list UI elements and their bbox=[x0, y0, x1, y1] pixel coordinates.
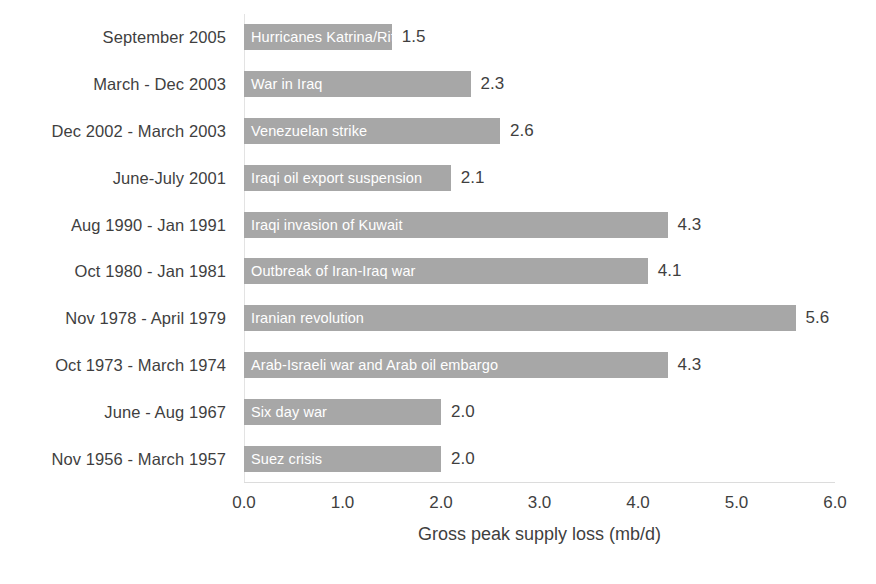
bar-inner-label: Iraqi oil export suspension bbox=[251, 165, 422, 191]
bar-inner-label: Iraqi invasion of Kuwait bbox=[251, 212, 403, 238]
bar-inner-label: Iranian revolution bbox=[251, 305, 364, 331]
category-label: Dec 2002 - March 2003 bbox=[0, 121, 226, 141]
category-label: March - Dec 2003 bbox=[0, 74, 226, 94]
bar-value-label: 2.3 bbox=[481, 71, 505, 97]
bar-inner-label: Outbreak of Iran-Iraq war bbox=[251, 258, 416, 284]
bar-inner-label: Suez crisis bbox=[251, 446, 322, 472]
category-label: Oct 1980 - Jan 1981 bbox=[0, 261, 226, 281]
bar-row: Hurricanes Katrina/Rita1.5 bbox=[244, 24, 835, 50]
x-tick-label: 4.0 bbox=[626, 492, 650, 514]
x-axis-tick-labels: 0.01.02.03.04.05.06.0 bbox=[244, 492, 835, 518]
category-label: Nov 1956 - March 1957 bbox=[0, 449, 226, 469]
bar-inner-label: War in Iraq bbox=[251, 71, 322, 97]
x-tick-label: 6.0 bbox=[823, 492, 847, 514]
bar-inner-label: Venezuelan strike bbox=[251, 118, 367, 144]
category-label: Aug 1990 - Jan 1991 bbox=[0, 215, 226, 235]
bar-row: Iraqi oil export suspension2.1 bbox=[244, 165, 835, 191]
bar: Hurricanes Katrina/Rita bbox=[244, 24, 392, 50]
bar-row: Outbreak of Iran-Iraq war4.1 bbox=[244, 258, 835, 284]
category-axis-labels: September 2005March - Dec 2003Dec 2002 -… bbox=[0, 14, 236, 482]
bar: Iraqi invasion of Kuwait bbox=[244, 212, 668, 238]
horizontal-bar-chart: September 2005March - Dec 2003Dec 2002 -… bbox=[0, 0, 876, 584]
bar-value-label: 5.6 bbox=[806, 305, 830, 331]
bar: Iraqi oil export suspension bbox=[244, 165, 451, 191]
x-tick-label: 3.0 bbox=[528, 492, 552, 514]
plot-area: Hurricanes Katrina/Rita1.5War in Iraq2.3… bbox=[244, 14, 835, 482]
bar: Arab-Israeli war and Arab oil embargo bbox=[244, 352, 668, 378]
bar: Iranian revolution bbox=[244, 305, 796, 331]
x-tick-label: 2.0 bbox=[429, 492, 453, 514]
bar-value-label: 2.0 bbox=[451, 446, 475, 472]
bar-value-label: 2.1 bbox=[461, 165, 485, 191]
bar-value-label: 2.6 bbox=[510, 118, 534, 144]
bar: Suez crisis bbox=[244, 446, 441, 472]
bar-value-label: 4.1 bbox=[658, 258, 682, 284]
category-label: September 2005 bbox=[0, 27, 226, 47]
bar: Venezuelan strike bbox=[244, 118, 500, 144]
bar-inner-label: Arab-Israeli war and Arab oil embargo bbox=[251, 352, 498, 378]
x-tick-label: 5.0 bbox=[725, 492, 749, 514]
x-axis-line bbox=[244, 482, 835, 483]
bar-value-label: 4.3 bbox=[678, 212, 702, 238]
bar: Six day war bbox=[244, 399, 441, 425]
bar-value-label: 1.5 bbox=[402, 24, 426, 50]
bar-value-label: 2.0 bbox=[451, 399, 475, 425]
bar-inner-label: Six day war bbox=[251, 399, 327, 425]
bar: War in Iraq bbox=[244, 71, 471, 97]
bar-row: Suez crisis2.0 bbox=[244, 446, 835, 472]
category-label: Oct 1973 - March 1974 bbox=[0, 355, 226, 375]
category-label: June - Aug 1967 bbox=[0, 402, 226, 422]
bar-row: War in Iraq2.3 bbox=[244, 71, 835, 97]
bar-inner-label: Hurricanes Katrina/Rita bbox=[251, 24, 392, 50]
x-tick-label: 1.0 bbox=[331, 492, 355, 514]
category-label: Nov 1978 - April 1979 bbox=[0, 308, 226, 328]
x-tick-label: 0.0 bbox=[232, 492, 256, 514]
category-label: June-July 2001 bbox=[0, 168, 226, 188]
bar-value-label: 4.3 bbox=[678, 352, 702, 378]
bar-row: Arab-Israeli war and Arab oil embargo4.3 bbox=[244, 352, 835, 378]
bar-row: Iraqi invasion of Kuwait4.3 bbox=[244, 212, 835, 238]
bar: Outbreak of Iran-Iraq war bbox=[244, 258, 648, 284]
x-axis-title: Gross peak supply loss (mb/d) bbox=[244, 522, 835, 546]
bar-row: Six day war2.0 bbox=[244, 399, 835, 425]
bar-row: Iranian revolution5.6 bbox=[244, 305, 835, 331]
bar-row: Venezuelan strike2.6 bbox=[244, 118, 835, 144]
